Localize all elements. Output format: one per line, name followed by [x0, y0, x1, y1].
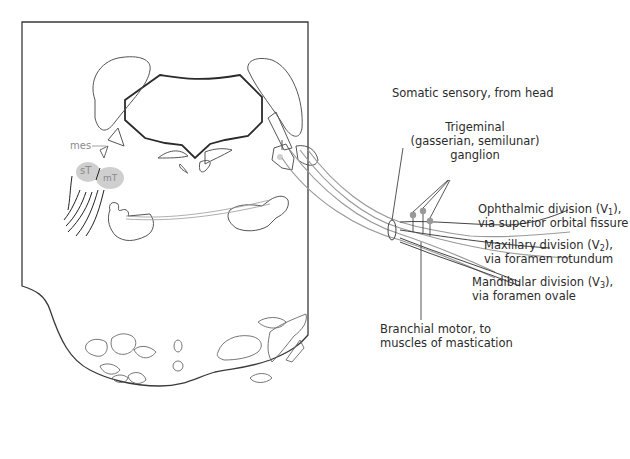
left-peduncle [93, 57, 150, 130]
ophthalmic-label-line1: Ophthalmic division (V1), [478, 202, 628, 216]
ophthalmic-label-line2: via superior orbital fissure [478, 216, 628, 230]
left-lower-structure [108, 203, 153, 241]
ophthalmic-text: Ophthalmic division (V [478, 202, 608, 216]
maxillary-text: Maxillary division (V [484, 238, 600, 252]
mandibular-text: Mandibular division (V [472, 275, 600, 289]
sT-label: sT [80, 165, 91, 176]
medial-loop-left [179, 164, 187, 173]
ganglion-label-line2: (gasserian, semilunar) [410, 134, 540, 148]
branchial-label-line2: muscles of mastication [380, 336, 513, 350]
mandibular-text-end: ), [605, 275, 613, 289]
maxillary-label-line1: Maxillary division (V2), [484, 238, 613, 252]
ganglion-cells [410, 180, 450, 236]
maxillary-label-line2: via foramen rotundum [484, 252, 613, 266]
ganglion-label-line3: ganglion [410, 148, 540, 162]
somatic-sensory-label: Somatic sensory, from head [392, 86, 554, 100]
ganglion-label: Trigeminal (gasserian, semilunar) gangli… [410, 120, 540, 162]
maxillary-text-end: ), [605, 238, 613, 252]
mes-label: mes [70, 140, 91, 151]
left-lateral-wedge [108, 128, 124, 146]
mandibular-label: Mandibular division (V3), via foramen ov… [472, 275, 613, 303]
pyramidal-islands-left [85, 334, 183, 384]
fourth-ventricle [125, 75, 262, 158]
transverse-fibers [126, 200, 270, 220]
right-peduncle [248, 58, 302, 136]
ganglion-label-line1: Trigeminal [410, 120, 540, 134]
mes-wedge [100, 146, 108, 158]
medial-structure-left [158, 151, 188, 158]
mandibular-label-line1: Mandibular division (V3), [472, 275, 613, 289]
right-lower-structure [228, 196, 288, 231]
ophthalmic-text-end: ), [613, 202, 621, 216]
mandibular-label-line2: via foramen ovale [472, 289, 613, 303]
maxillary-label: Maxillary division (V2), via foramen rot… [484, 238, 613, 266]
ophthalmic-label: Ophthalmic division (V1), via superior o… [478, 202, 628, 230]
mT-label: mT [103, 173, 117, 183]
right-lateral-wedge [268, 112, 292, 150]
branchial-label-line1: Branchial motor, to [380, 322, 513, 336]
medial-structure-right [205, 149, 232, 164]
somatic-leader [392, 148, 403, 220]
branchial-motor-label: Branchial motor, to muscles of masticati… [380, 322, 513, 350]
